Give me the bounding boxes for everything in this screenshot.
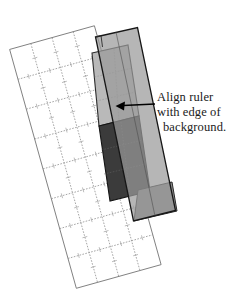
callout-line-2: with edge of [157, 105, 221, 120]
callout-line-1: Align ruler [157, 90, 213, 105]
callout-line-3: background. [163, 120, 226, 135]
figure-svg [0, 0, 229, 296]
illustration-canvas [0, 0, 229, 296]
